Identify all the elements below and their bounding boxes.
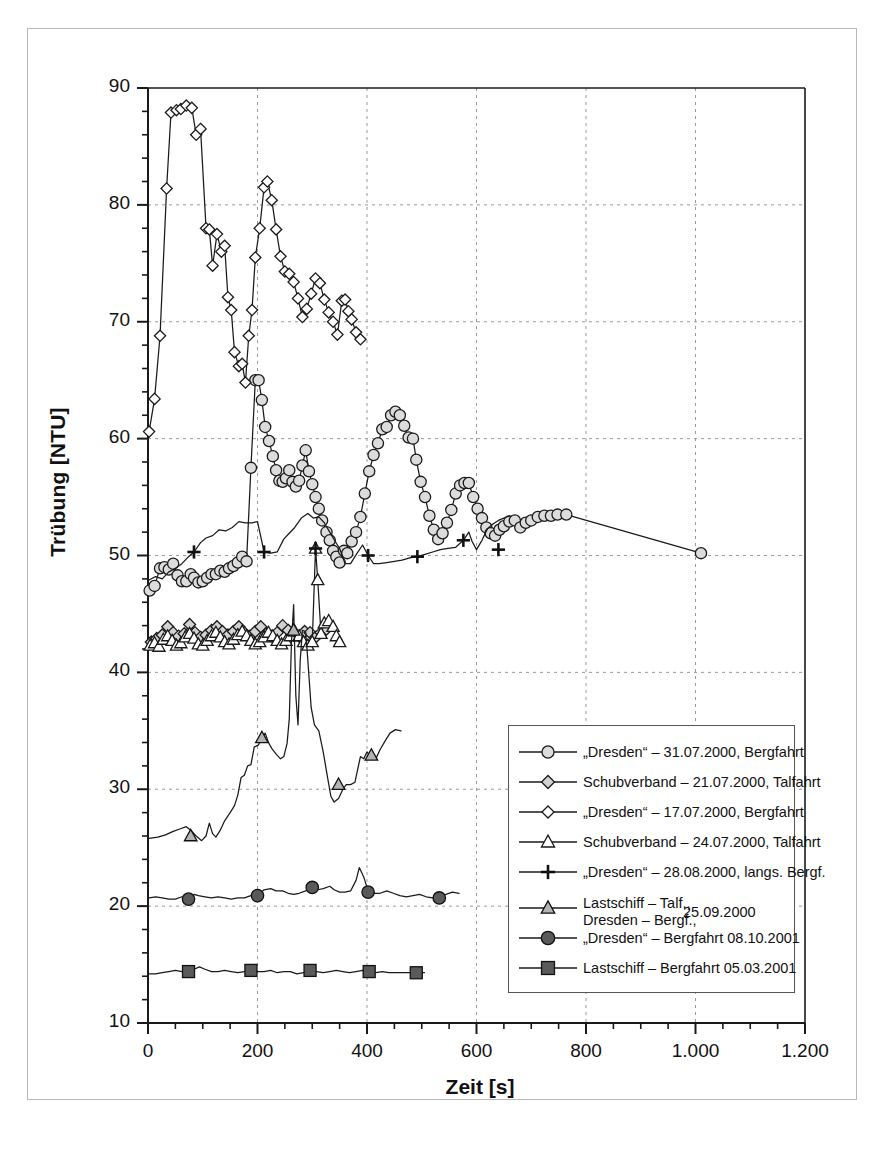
data-marker-circle-filled-gray bbox=[441, 517, 452, 528]
data-marker-diamond-open bbox=[243, 330, 254, 341]
y-tick-label: 60 bbox=[78, 426, 130, 448]
data-marker-square-filled-dark bbox=[542, 962, 555, 975]
data-marker-diamond-open bbox=[254, 223, 265, 234]
x-tick-label: 200 bbox=[213, 1040, 303, 1062]
data-marker-circle-filled-gray bbox=[419, 491, 430, 502]
data-marker-circle-filled-dark bbox=[306, 881, 318, 893]
data-marker-square-filled-dark bbox=[183, 966, 195, 978]
data-marker-triangle-filled-gray bbox=[332, 778, 345, 789]
legend-marker-circle-filled-dark bbox=[517, 924, 579, 952]
data-marker-diamond-open bbox=[154, 330, 165, 341]
data-marker-circle-filled-gray bbox=[300, 445, 311, 456]
x-tick-label: 0 bbox=[103, 1040, 193, 1062]
legend-item: „Dresden“ – 28.08.2000, langs. Bergf. bbox=[509, 858, 796, 886]
data-marker-diamond-open bbox=[226, 304, 237, 315]
data-marker-circle-filled-gray bbox=[350, 527, 361, 538]
data-marker-plus bbox=[361, 549, 374, 562]
data-marker-diamond-open bbox=[143, 426, 154, 437]
series-0 bbox=[144, 375, 707, 597]
data-marker-circle-filled-dark bbox=[182, 893, 194, 905]
data-marker-diamond-open bbox=[332, 329, 343, 340]
data-marker-circle-filled-gray bbox=[303, 466, 314, 477]
data-marker-diamond-open bbox=[207, 260, 218, 271]
data-marker-circle-filled-gray bbox=[253, 375, 264, 386]
legend-label: „Dresden“ – 28.08.2000, langs. Bergf. bbox=[583, 858, 826, 886]
data-marker-circle-filled-gray bbox=[695, 548, 706, 559]
legend-label: Lastschiff – Bergfahrt 05.03.2001 bbox=[583, 954, 796, 982]
y-tick-label: 10 bbox=[78, 1010, 130, 1032]
y-tick-label: 50 bbox=[78, 543, 130, 565]
legend-marker-diamond-filled-gray bbox=[517, 768, 579, 796]
data-marker-plus bbox=[257, 545, 270, 558]
data-marker-circle-filled-gray bbox=[294, 475, 305, 486]
data-marker-circle-filled-gray bbox=[424, 510, 435, 521]
data-marker-circle-filled-gray bbox=[411, 454, 422, 465]
data-marker-circle-filled-gray bbox=[310, 491, 321, 502]
legend-marker-plus bbox=[517, 858, 579, 886]
legend-item: „Dresden“ – 31.07.2000, Bergfahrt bbox=[509, 738, 796, 766]
data-marker-circle-filled-dark bbox=[362, 886, 374, 898]
x-axis-title: Zeit [s] bbox=[330, 1075, 630, 1099]
y-tick-label: 70 bbox=[78, 309, 130, 331]
data-marker-diamond-open bbox=[319, 294, 330, 305]
legend-item: Schubverband – 21.07.2000, Talfahrt bbox=[509, 768, 796, 796]
data-marker-diamond-open bbox=[542, 806, 554, 818]
data-marker-diamond-open bbox=[292, 293, 303, 304]
data-marker-square-filled-dark bbox=[410, 967, 422, 979]
legend-label: „Dresden“ – 17.07.2000, Bergfahrt bbox=[583, 798, 804, 826]
legend-label: Schubverband – 24.07.2000, Talfahrt bbox=[583, 828, 821, 856]
legend-item: „Dresden“ – Bergfahrt 08.10.2001 bbox=[509, 924, 796, 952]
y-tick-label: 90 bbox=[78, 75, 130, 97]
data-marker-diamond-open bbox=[266, 195, 277, 206]
data-marker-circle-filled-gray bbox=[256, 394, 267, 405]
data-marker-circle-filled-gray bbox=[245, 462, 256, 473]
y-tick-label: 20 bbox=[78, 893, 130, 915]
legend-marker-square-filled-dark bbox=[517, 954, 579, 982]
data-marker-triangle-filled-gray bbox=[541, 901, 555, 913]
data-marker-square-filled-dark bbox=[245, 964, 257, 976]
data-marker-circle-filled-gray bbox=[324, 535, 335, 546]
legend-label: Schubverband – 21.07.2000, Talfahrt bbox=[583, 768, 821, 796]
data-marker-diamond-open bbox=[271, 224, 282, 235]
data-marker-circle-filled-dark bbox=[251, 889, 263, 901]
data-marker-circle-filled-gray bbox=[381, 421, 392, 432]
data-marker-square-filled-dark bbox=[363, 966, 375, 978]
legend-marker-circle-filled-gray bbox=[517, 738, 579, 766]
data-marker-circle-filled-gray bbox=[437, 528, 448, 539]
legend-marker-triangle-filled-gray bbox=[517, 894, 579, 922]
data-marker-circle-filled-gray bbox=[399, 420, 410, 431]
data-marker-circle-filled-dark bbox=[433, 892, 445, 904]
data-marker-circle-filled-gray bbox=[368, 449, 379, 460]
chart-legend: „Dresden“ – 31.07.2000, BergfahrtSchubve… bbox=[508, 725, 795, 993]
data-marker-plus bbox=[492, 543, 505, 556]
y-tick-label: 30 bbox=[78, 776, 130, 798]
data-marker-circle-filled-gray bbox=[271, 465, 282, 476]
data-marker-circle-filled-gray bbox=[407, 433, 418, 444]
data-marker-diamond-open bbox=[246, 304, 257, 315]
data-marker-diamond-open bbox=[149, 393, 160, 404]
legend-label: „Dresden“ – 31.07.2000, Bergfahrt bbox=[583, 738, 804, 766]
legend-label: „Dresden“ – Bergfahrt 08.10.2001 bbox=[583, 924, 800, 952]
data-marker-diamond-open bbox=[161, 183, 172, 194]
data-marker-diamond-open bbox=[275, 251, 286, 262]
data-marker-triangle-open bbox=[312, 574, 324, 585]
data-marker-circle-filled-gray bbox=[394, 410, 405, 421]
data-marker-circle-filled-gray bbox=[307, 479, 318, 490]
data-marker-diamond-filled-gray bbox=[542, 776, 555, 789]
data-marker-circle-filled-gray bbox=[284, 465, 295, 476]
data-marker-circle-filled-gray bbox=[415, 476, 426, 487]
legend-item: Lastschiff – Bergfahrt 05.03.2001 bbox=[509, 954, 796, 982]
x-tick-label: 400 bbox=[322, 1040, 412, 1062]
data-marker-diamond-open bbox=[250, 252, 261, 263]
data-marker-diamond-open bbox=[222, 292, 233, 303]
series-7 bbox=[149, 964, 424, 978]
legend-item: „Dresden“ – 17.07.2000, Bergfahrt bbox=[509, 798, 796, 826]
y-tick-label: 80 bbox=[78, 192, 130, 214]
x-tick-label: 800 bbox=[541, 1040, 631, 1062]
data-marker-circle-filled-gray bbox=[241, 556, 252, 567]
data-marker-circle-filled-gray bbox=[446, 504, 457, 515]
data-marker-circle-filled-gray bbox=[372, 438, 383, 449]
data-marker-circle-filled-gray bbox=[542, 746, 554, 758]
series-6 bbox=[149, 868, 459, 906]
data-marker-circle-filled-gray bbox=[468, 491, 479, 502]
